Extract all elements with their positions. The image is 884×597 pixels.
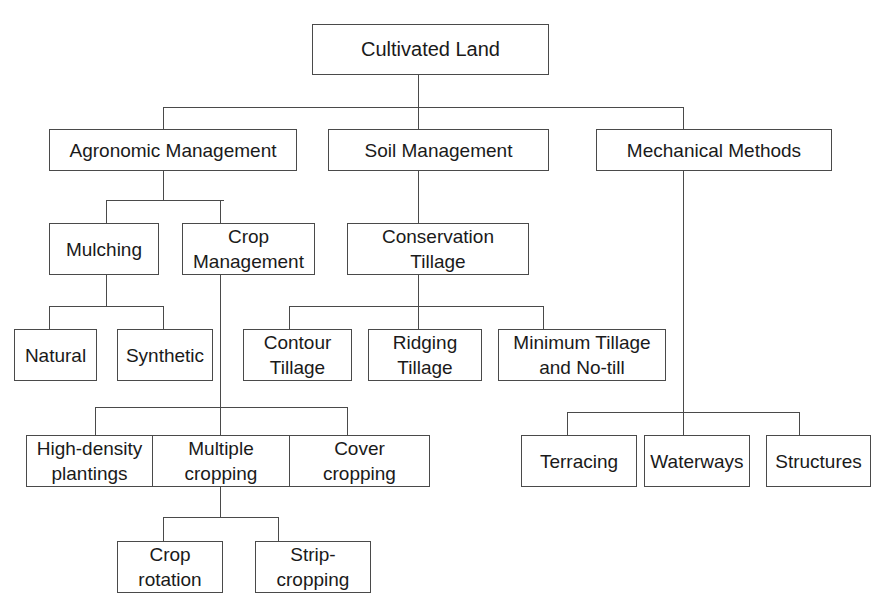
node-conservation-tillage: Conservation Tillage xyxy=(347,223,529,275)
connector-conservation-down xyxy=(418,275,419,329)
connector-to-synthetic xyxy=(163,306,164,329)
node-cover-cropping: Cover cropping xyxy=(289,435,430,487)
connector-level1-bar xyxy=(163,107,684,108)
connector-to-high-density xyxy=(95,407,96,435)
connector-multiple-cropping-bar xyxy=(163,517,279,518)
connector-to-mechanical xyxy=(683,107,684,129)
node-contour-tillage: Contour Tillage xyxy=(243,329,352,381)
node-structures: Structures xyxy=(766,435,871,487)
node-terracing: Terracing xyxy=(521,435,637,487)
connector-to-minimum-tillage xyxy=(543,306,544,329)
connector-mechanical-bar xyxy=(567,412,800,413)
connector-agronomic-down xyxy=(163,171,164,200)
connector-to-natural xyxy=(49,306,50,329)
node-multiple-cropping: Multiple cropping xyxy=(152,435,290,487)
connector-root-down xyxy=(418,75,419,129)
node-crop-management: Crop Management xyxy=(182,223,315,275)
node-mechanical-methods: Mechanical Methods xyxy=(596,129,832,171)
connector-agronomic-bar xyxy=(106,200,224,201)
node-minimum-tillage: Minimum Tillage and No-till xyxy=(498,329,666,381)
connector-mulching-bar xyxy=(49,306,164,307)
connector-to-structures xyxy=(799,412,800,435)
node-crop-rotation: Crop rotation xyxy=(117,541,223,593)
connector-crop-management-bar xyxy=(95,407,347,408)
node-waterways: Waterways xyxy=(644,435,750,487)
connector-to-contour xyxy=(289,306,290,329)
connector-to-terracing xyxy=(567,412,568,435)
connector-multiple-cropping-down xyxy=(220,487,221,517)
connector-conservation-bar xyxy=(289,306,544,307)
node-ridging-tillage: Ridging Tillage xyxy=(368,329,482,381)
node-cultivated-land: Cultivated Land xyxy=(312,24,549,75)
node-strip-cropping: Strip- cropping xyxy=(255,541,371,593)
connector-to-crop-rotation xyxy=(163,517,164,541)
connector-to-crop-management xyxy=(220,200,221,223)
node-high-density-plantings: High-density plantings xyxy=(26,435,153,487)
connector-soil-down xyxy=(418,171,419,223)
connector-to-strip-cropping xyxy=(278,517,279,541)
connector-to-agronomic xyxy=(163,107,164,129)
node-natural: Natural xyxy=(14,329,97,381)
node-synthetic: Synthetic xyxy=(117,329,213,381)
node-soil-management: Soil Management xyxy=(328,129,549,171)
node-mulching: Mulching xyxy=(49,223,159,275)
connector-mechanical-down xyxy=(683,171,684,435)
connector-to-mulching xyxy=(106,200,107,223)
node-agronomic-management: Agronomic Management xyxy=(49,129,297,171)
connector-mulching-down xyxy=(106,275,107,306)
connector-crop-management-down xyxy=(220,275,221,435)
connector-to-cover-cropping xyxy=(347,407,348,435)
